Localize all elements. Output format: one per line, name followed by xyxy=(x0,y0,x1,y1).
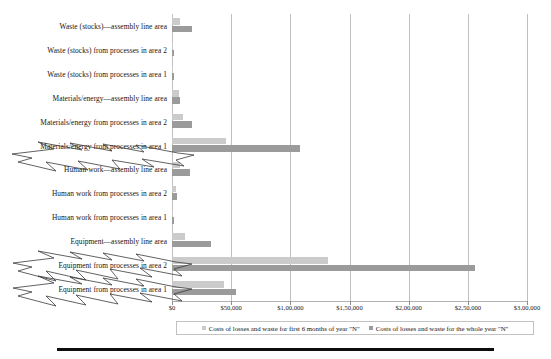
legend-label-first-half: Costs of losses and waste for first 6 mo… xyxy=(209,325,360,332)
bar-first-half xyxy=(172,257,328,264)
chart-legend: Costs of losses and waste for first 6 mo… xyxy=(176,321,534,335)
x-tick-label: $3,00,000 xyxy=(514,304,540,311)
figure-page: Waste (stocks)—assembly line areaWaste (… xyxy=(0,0,551,359)
category-label: Waste (stocks)—assembly line area xyxy=(59,21,167,30)
legend-swatch-first-half xyxy=(202,326,206,330)
legend-label-whole-year: Costs of losses and waste for the whole … xyxy=(376,325,509,332)
chart-row: Waste (stocks)—assembly line area xyxy=(172,14,527,38)
chart-row: Equipment—assembly line area xyxy=(172,229,527,253)
category-label: Waste (stocks) from processes in area 1 xyxy=(47,69,167,78)
chart-row: Materials/energy—assembly line area xyxy=(172,86,527,110)
axis-tick xyxy=(290,301,291,305)
bar-whole-year xyxy=(172,97,180,104)
bar-whole-year xyxy=(172,265,475,272)
category-label: Materials/energy—assembly line area xyxy=(52,93,167,102)
bar-whole-year xyxy=(172,73,174,80)
bar-first-half xyxy=(172,281,224,288)
legend-swatch-whole-year xyxy=(369,326,373,330)
axis-tick xyxy=(172,301,173,305)
bar-whole-year xyxy=(172,289,236,296)
bottom-divider-rule xyxy=(57,348,494,351)
chart-row: Waste (stocks) from processes in area 1 xyxy=(172,62,527,86)
bar-first-half xyxy=(172,42,173,49)
chart-row: Human work from processes in area 2 xyxy=(172,181,527,205)
bar-first-half xyxy=(172,210,173,217)
chart-row: Equipment from processes in area 2 xyxy=(172,253,527,277)
x-axis-tick-labels: $0$50,000$1,00,000$1,50,000$2,00,000$2,5… xyxy=(172,304,528,316)
bar-whole-year xyxy=(172,169,190,176)
x-tick-label: $1,00,000 xyxy=(277,304,303,311)
bar-first-half xyxy=(172,138,226,145)
bar-first-half xyxy=(172,162,180,169)
bar-whole-year xyxy=(172,121,192,128)
chart-row: Equipment from processes in area 1 xyxy=(172,277,527,301)
chart-row: Materials/energy from processes in area … xyxy=(172,110,527,134)
bar-whole-year xyxy=(172,26,192,33)
axis-tick xyxy=(527,301,528,305)
bar-first-half xyxy=(172,233,185,240)
bar-whole-year xyxy=(172,241,211,248)
category-label: Human work from processes in area 1 xyxy=(52,213,167,222)
gridline xyxy=(527,14,528,301)
bar-first-half xyxy=(172,90,179,97)
bar-first-half xyxy=(172,114,183,121)
legend-item-whole-year: Costs of losses and waste for the whole … xyxy=(369,325,509,332)
axis-tick xyxy=(231,301,232,305)
category-label: Equipment from processes in area 2 xyxy=(58,261,167,270)
category-label: Waste (stocks) from processes in area 2 xyxy=(47,45,167,54)
category-label: Materials/energy from processes in area … xyxy=(40,141,167,150)
chart-row: Waste (stocks) from processes in area 2 xyxy=(172,38,527,62)
bar-whole-year xyxy=(172,193,177,200)
bar-whole-year xyxy=(172,145,300,152)
bar-whole-year xyxy=(172,217,174,224)
category-label: Materials/energy from processes in area … xyxy=(40,117,167,126)
bar-first-half xyxy=(172,18,180,25)
chart-row: Materials/energy from processes in area … xyxy=(172,134,527,158)
chart-row: Human work—assembly line area xyxy=(172,158,527,182)
x-tick-label: $2,00,000 xyxy=(395,304,421,311)
chart-row: Human work from processes in area 1 xyxy=(172,205,527,229)
axis-tick xyxy=(350,301,351,305)
legend-item-first-half: Costs of losses and waste for first 6 mo… xyxy=(202,325,360,332)
axis-tick xyxy=(468,301,469,305)
plot-area: Waste (stocks)—assembly line areaWaste (… xyxy=(172,14,527,301)
category-label: Human work—assembly line area xyxy=(64,165,167,174)
bar-whole-year xyxy=(172,50,174,57)
bar-first-half xyxy=(172,186,176,193)
x-tick-label: $1,50,000 xyxy=(336,304,362,311)
axis-tick xyxy=(409,301,410,305)
x-tick-label: $0 xyxy=(169,304,176,311)
x-tick-label: $50,000 xyxy=(220,304,241,311)
bar-first-half xyxy=(172,66,173,73)
category-label: Equipment from processes in area 1 xyxy=(58,285,167,294)
category-label: Equipment—assembly line area xyxy=(71,237,167,246)
bar-chart: Waste (stocks)—assembly line areaWaste (… xyxy=(0,0,551,318)
category-label: Human work from processes in area 2 xyxy=(52,189,167,198)
x-tick-label: $2,50,000 xyxy=(455,304,481,311)
